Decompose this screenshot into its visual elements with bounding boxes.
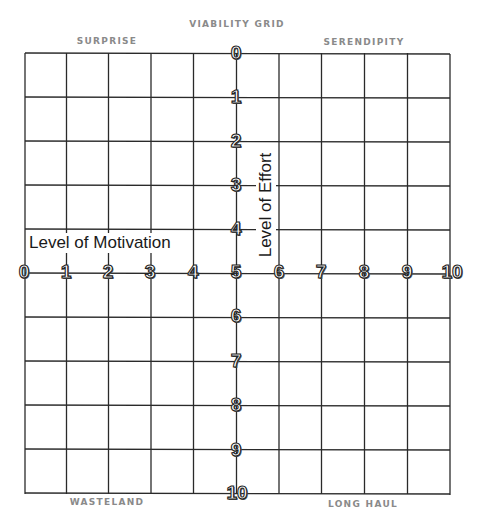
y-tick-7: 7 [231,351,242,370]
y-tick-1: 1 [231,87,242,106]
y-tick-3: 3 [231,175,242,194]
y-tick-8: 8 [231,395,242,414]
x-tick-3: 3 [145,262,156,281]
vertical-axis-title: Level of Effort [256,144,276,266]
x-tick-6: 6 [274,262,285,281]
x-tick-9: 9 [402,262,413,281]
x-tick-0: 0 [19,262,30,281]
x-tick-10: 10 [441,262,462,281]
y-tick-6: 6 [231,306,242,325]
y-tick-2: 2 [231,131,242,150]
x-tick-4: 4 [188,262,199,281]
y-tick-0: 0 [231,43,242,62]
x-tick-8: 8 [359,262,370,281]
y-tick-4: 4 [231,219,242,238]
x-tick-2: 2 [103,262,114,281]
x-tick-1: 1 [61,262,72,281]
y-tick-10: 10 [226,483,247,502]
x-tick-5: 5 [231,262,242,281]
y-tick-9: 9 [231,440,242,459]
horizontal-axis-title: Level of Motivation [29,233,175,253]
x-tick-7: 7 [316,262,327,281]
